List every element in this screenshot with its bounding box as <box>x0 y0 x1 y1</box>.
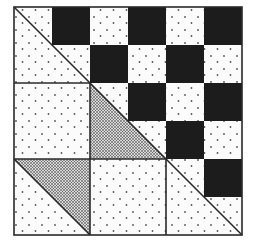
dark-square <box>166 121 204 159</box>
dark-square <box>52 7 90 45</box>
dark-square <box>204 83 242 121</box>
dark-square <box>204 7 242 45</box>
quilt-block-figure <box>0 0 253 247</box>
dark-square <box>128 83 166 121</box>
dark-square <box>128 7 166 45</box>
dark-square <box>204 159 242 197</box>
dark-square <box>90 45 128 83</box>
dark-square <box>166 45 204 83</box>
